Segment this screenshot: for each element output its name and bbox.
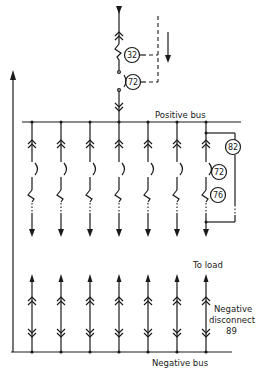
arrow-down-icon (29, 229, 35, 237)
device-32: 32 (125, 48, 159, 63)
svg-text:82: 82 (228, 143, 238, 152)
to-load-label: To load (192, 260, 223, 270)
relay-coil-icon (115, 190, 121, 202)
arrow-up-icon (30, 274, 35, 282)
breaker-arc-icon (64, 163, 67, 175)
negative-disconnect-label: Negative (214, 304, 252, 314)
arrow-down-icon (58, 229, 64, 237)
arrow-up-icon (59, 274, 64, 282)
svg-text:76: 76 (213, 191, 223, 200)
relay-coil-icon (202, 190, 208, 202)
relay-coil-icon (173, 190, 179, 202)
relay-coil-icon (115, 44, 121, 70)
return-conductor (10, 70, 16, 352)
negative-disconnect-label-2: disconnect (209, 315, 256, 325)
positive-bus-label: Positive bus (155, 110, 206, 120)
relay-coil-icon (144, 190, 150, 202)
relay-coil-icon (86, 190, 92, 202)
breaker-arc-icon (93, 163, 96, 175)
arrow-up-icon (175, 274, 180, 282)
arrow-up-icon (204, 274, 209, 282)
arrow-down-icon (203, 229, 209, 237)
arrow-down-icon (116, 229, 122, 237)
arrow-up-icon (117, 274, 122, 282)
arrow-up-icon (88, 274, 93, 282)
svg-text:72: 72 (214, 168, 224, 177)
arrow-up-icon (146, 274, 151, 282)
feeder-7-relay-box: 82 72 76 (205, 132, 241, 224)
breaker-arc-icon (180, 163, 183, 175)
svg-text:32: 32 (127, 51, 137, 60)
negative-disconnect-number: 89 (226, 326, 237, 336)
relay-coil-icon (28, 190, 34, 202)
arrow-up-icon (10, 70, 16, 80)
device-72-incoming: 72 (126, 75, 159, 90)
breaker-arc-icon (122, 163, 125, 175)
dc-switchgear-diagram: 32 72 Positive bus Negative bus 82 72 76 (0, 0, 261, 376)
arrow-down-icon (174, 229, 180, 237)
arrow-down-icon (145, 229, 151, 237)
negative-bus-label: Negative bus (152, 358, 209, 368)
feeder-group (28, 120, 212, 353)
svg-text:72: 72 (128, 78, 138, 87)
arrow-down-icon (87, 229, 93, 237)
breaker-arc-icon (151, 163, 154, 175)
breaker-arc-icon (35, 163, 38, 175)
relay-coil-icon (57, 190, 63, 202)
incoming-feeder (115, 6, 126, 122)
trip-direction-arrow (165, 32, 171, 63)
